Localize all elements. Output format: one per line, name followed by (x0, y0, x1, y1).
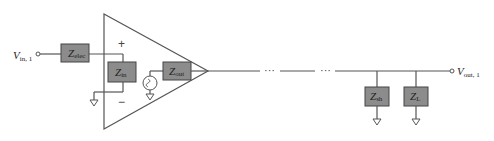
zin-box: Zin (108, 62, 136, 82)
zelec-box: Zelec (61, 44, 89, 62)
output-terminal (450, 69, 454, 73)
ground-icon (373, 119, 381, 125)
zout-box: Zout (163, 62, 191, 80)
output-voltage-label: Vout, 1 (457, 65, 480, 79)
circuit-diagram: Vin, 1 Zelec + − Zin Zout ··· ··· Vout, … (0, 0, 494, 141)
ground-icon (146, 94, 154, 100)
zsh-box: Zsh (365, 87, 389, 106)
input-terminal (36, 52, 40, 56)
minus-sign: − (118, 95, 125, 109)
ground-icon (412, 119, 420, 125)
ellipsis: ··· (320, 64, 331, 76)
plus-sign: + (118, 37, 125, 51)
ellipsis: ··· (264, 64, 275, 76)
zl-box: ZL (404, 87, 428, 106)
input-voltage-label: Vin, 1 (13, 49, 33, 63)
ground-icon (90, 100, 98, 106)
voltage-source-icon (143, 76, 157, 90)
